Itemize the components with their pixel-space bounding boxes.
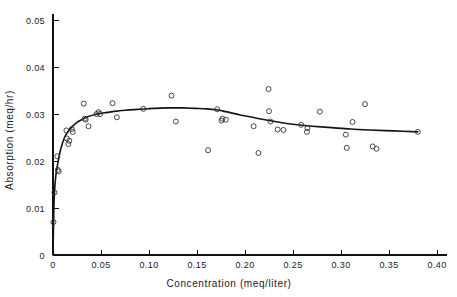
x-tick-label: 0 — [50, 260, 55, 270]
data-point-marker — [374, 146, 379, 151]
x-axis-ticks — [101, 250, 437, 255]
data-point-marker — [81, 101, 86, 106]
y-tick-label: 0.05 — [26, 16, 45, 26]
axes — [53, 14, 447, 255]
x-tick-label: 0.15 — [187, 260, 206, 270]
data-point-marker — [275, 127, 280, 132]
fitted-curve — [53, 108, 418, 255]
data-point-marker — [267, 109, 272, 114]
x-tick-label: 0.35 — [379, 260, 398, 270]
y-tick-label: 0.03 — [26, 110, 45, 120]
x-tick-label: 0.20 — [235, 260, 254, 270]
x-tick-label: 0.40 — [427, 260, 446, 270]
data-point-marker — [251, 124, 256, 129]
x-tick-label: 0.30 — [331, 260, 350, 270]
x-tick-label: 0.25 — [283, 260, 302, 270]
data-point-marker — [343, 132, 348, 137]
y-axis-tick-labels: 00.010.020.030.040.05 — [26, 16, 45, 261]
y-tick-label: 0.04 — [26, 63, 45, 73]
x-tick-label: 0.05 — [91, 260, 110, 270]
data-point-marker — [281, 127, 286, 132]
absorption-concentration-figure: 00.050.100.150.200.250.300.350.40 00.010… — [0, 0, 457, 297]
y-tick-label: 0.02 — [26, 157, 45, 167]
data-point-marker — [206, 148, 211, 153]
data-point-marker — [173, 119, 178, 124]
x-tick-label: 0.10 — [139, 260, 158, 270]
y-tick-label: 0 — [40, 251, 45, 261]
data-point-marker — [86, 124, 91, 129]
data-point-marker — [114, 115, 119, 120]
data-point-marker — [317, 109, 322, 114]
data-points — [51, 87, 420, 225]
data-point-marker — [66, 142, 71, 147]
data-point-marker — [363, 102, 368, 107]
y-axis-title: Absorption (meq/hr) — [4, 90, 15, 190]
y-tick-label: 0.01 — [26, 204, 45, 214]
data-point-marker — [266, 87, 271, 92]
data-point-marker — [344, 145, 349, 150]
x-axis-tick-labels: 00.050.100.150.200.250.300.350.40 — [50, 260, 446, 270]
data-point-marker — [350, 119, 355, 124]
data-point-marker — [169, 93, 174, 98]
x-axis-title: Concentration (meq/liter) — [166, 278, 291, 289]
data-point-marker — [110, 101, 115, 106]
chart-canvas: 00.050.100.150.200.250.300.350.40 00.010… — [0, 0, 457, 297]
data-point-marker — [256, 151, 261, 156]
